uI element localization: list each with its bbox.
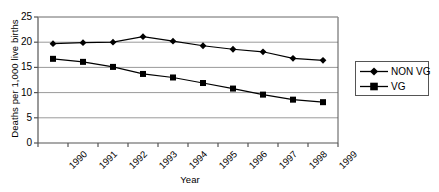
legend-marker-square-icon <box>359 79 389 94</box>
legend-label-vg: VG <box>391 81 405 92</box>
legend-entry-vg: VG <box>356 79 430 94</box>
x-tick-label: 1991 <box>97 149 119 171</box>
x-tick-label: 1993 <box>157 149 179 171</box>
x-tick-label: 1994 <box>187 149 209 171</box>
legend-entry-non-vg: NON VG <box>356 64 430 79</box>
x-tick-label: 1995 <box>217 149 239 171</box>
x-tick-label: 1998 <box>307 149 329 171</box>
x-tick-label: 1996 <box>247 149 269 171</box>
x-tick-label: 1997 <box>277 149 299 171</box>
x-tick-label: 1999 <box>337 149 359 171</box>
legend-marker-diamond-icon <box>359 64 389 79</box>
x-axis-tick-labels: 1990199119921993199419951996199719981999 <box>0 0 439 192</box>
line-chart: Deaths per 1,000 live births 0510152025 … <box>0 0 439 192</box>
x-tick-label: 1992 <box>127 149 149 171</box>
chart-legend: NON VG VG <box>355 61 429 96</box>
legend-label-non-vg: NON VG <box>391 66 430 77</box>
x-tick-label: 1990 <box>67 149 89 171</box>
x-axis-title: Year <box>140 174 240 185</box>
